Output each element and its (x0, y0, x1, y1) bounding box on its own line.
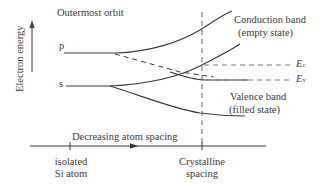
p-level-label: p (59, 40, 64, 52)
outermost-orbit-label: Outermost orbit (57, 7, 124, 19)
ev-label: Ev (296, 73, 306, 86)
p-level-dashed-branch (115, 54, 214, 77)
spacing-axis (30, 142, 266, 150)
conduction-band-sublabel: (empty state) (238, 27, 293, 39)
energy-axis-arrow (30, 20, 35, 72)
s-level-label: s (59, 78, 63, 90)
s-level-lower-curve (110, 86, 245, 116)
crystalline-spacing-line1: Crystalline (172, 156, 232, 168)
decreasing-spacing-label: Decreasing atom spacing (72, 131, 178, 143)
isolated-atom-line1: isolated (46, 156, 96, 168)
isolated-atom-line2: Si atom (46, 168, 96, 180)
electron-energy-label: Electron energy (14, 25, 25, 92)
conduction-band-label: Conduction band (234, 14, 306, 26)
valence-band-sublabel: (filled state) (229, 104, 280, 116)
crystalline-spacing-line2: spacing (172, 168, 232, 180)
isolated-atom-label: isolated Si atom (46, 156, 96, 180)
valence-band-label: Valence band (230, 91, 286, 103)
ec-label: Ec (296, 58, 306, 71)
crystalline-spacing-label: Crystalline spacing (172, 156, 232, 180)
